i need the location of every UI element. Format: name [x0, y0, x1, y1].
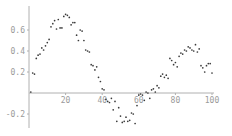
data-point — [74, 22, 76, 24]
data-point — [107, 101, 109, 103]
data-point — [200, 65, 202, 67]
data-point — [209, 63, 211, 65]
data-point — [123, 120, 125, 122]
data-point — [92, 65, 94, 67]
data-point — [109, 102, 111, 104]
data-point — [129, 119, 131, 121]
data-point — [169, 58, 171, 60]
data-point — [65, 13, 67, 15]
data-point — [191, 49, 193, 51]
data-point — [72, 22, 74, 24]
data-point — [81, 30, 83, 32]
data-point — [46, 42, 48, 44]
data-point — [85, 49, 87, 51]
data-point — [186, 50, 188, 52]
data-point — [61, 27, 63, 29]
scatter-plot: 20406080100 -0.20.20.40.6 — [0, 0, 232, 136]
data-point — [52, 23, 54, 25]
data-point — [197, 51, 199, 53]
data-point — [164, 76, 166, 78]
data-point — [143, 99, 145, 101]
data-point — [68, 17, 70, 19]
data-point — [39, 53, 41, 55]
data-point — [32, 72, 34, 74]
data-point — [118, 107, 120, 109]
data-point — [211, 72, 213, 74]
data-point — [153, 88, 155, 90]
x-tick-label: 80 — [171, 96, 181, 105]
data-point — [54, 20, 56, 22]
data-point — [48, 39, 50, 41]
data-point — [187, 46, 189, 48]
data-point — [100, 81, 102, 83]
data-point — [98, 76, 100, 78]
data-point — [204, 71, 206, 73]
data-point — [125, 116, 127, 118]
data-point — [78, 40, 80, 42]
data-point — [160, 75, 162, 77]
data-point — [176, 66, 178, 68]
data-point — [142, 94, 144, 96]
data-point — [198, 48, 200, 50]
data-point — [173, 64, 175, 66]
data-point — [94, 69, 96, 71]
data-point — [105, 98, 107, 100]
data-point — [89, 51, 91, 53]
data-point — [70, 24, 72, 26]
data-point — [45, 45, 47, 47]
data-point — [195, 44, 197, 46]
data-point — [37, 54, 39, 56]
data-point — [56, 28, 58, 30]
data-point — [43, 49, 45, 51]
data-point — [50, 26, 52, 28]
data-point — [111, 97, 113, 99]
data-point — [151, 89, 153, 91]
axes — [29, 6, 214, 128]
data-point — [127, 120, 129, 122]
y-tick-label: 0.4 — [11, 47, 26, 56]
data-point — [156, 85, 158, 87]
data-point — [30, 91, 32, 93]
data-point — [207, 63, 209, 65]
data-point — [206, 65, 208, 67]
data-point — [87, 50, 89, 52]
data-point — [96, 66, 98, 68]
data-point — [101, 88, 103, 90]
data-point — [175, 62, 177, 64]
data-point — [83, 40, 85, 42]
data-point — [162, 73, 164, 75]
data-point — [154, 91, 156, 93]
x-tick-label: 100 — [205, 96, 220, 105]
data-point — [90, 64, 92, 66]
data-point — [114, 101, 116, 103]
data-point — [103, 89, 105, 91]
y-tick-label: -0.2 — [6, 110, 25, 119]
data-point — [193, 50, 195, 52]
data-point — [112, 109, 114, 111]
data-point — [158, 87, 160, 89]
data-point — [57, 19, 59, 21]
data-point — [171, 60, 173, 62]
x-tick-label: 20 — [61, 96, 71, 105]
data-point — [132, 113, 134, 115]
data-point — [67, 14, 69, 16]
x-tick-label: 60 — [134, 96, 144, 105]
data-point — [165, 74, 167, 76]
data-point — [76, 34, 78, 36]
data-point — [79, 29, 81, 31]
data-point — [63, 16, 65, 18]
data-point — [138, 94, 140, 96]
data-point — [41, 47, 43, 49]
x-tick-label: 40 — [97, 96, 107, 105]
data-point — [136, 105, 138, 107]
data-point — [134, 123, 136, 125]
data-point — [120, 115, 122, 117]
y-ticks: -0.20.20.40.6 — [6, 26, 29, 119]
data-point — [34, 73, 36, 75]
data-point — [189, 47, 191, 49]
x-ticks: 20406080100 — [61, 93, 220, 105]
data-point — [35, 58, 37, 60]
data-point — [182, 53, 184, 55]
data-point — [184, 49, 186, 51]
data-point — [145, 91, 147, 93]
